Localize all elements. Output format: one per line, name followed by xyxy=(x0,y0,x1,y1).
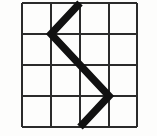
figure-root xyxy=(0,0,157,136)
grid-figure-svg xyxy=(0,0,157,136)
